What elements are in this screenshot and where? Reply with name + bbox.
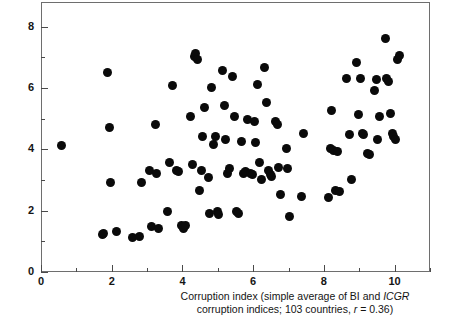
data-point <box>285 212 294 221</box>
data-point <box>195 186 204 195</box>
data-point <box>237 137 246 146</box>
y-axis-tick <box>41 149 48 150</box>
data-point <box>274 163 283 172</box>
data-point <box>381 34 390 43</box>
data-point <box>204 173 213 182</box>
data-point <box>152 169 161 178</box>
data-point <box>324 193 333 202</box>
y-axis-tick <box>41 27 48 28</box>
caption-line1-italic: ICGR <box>383 290 409 302</box>
data-point <box>221 135 230 144</box>
x-axis-tick <box>76 268 77 272</box>
data-point <box>395 51 404 60</box>
x-axis-tick-label: 8 <box>309 275 339 288</box>
x-axis-tick-label: 2 <box>97 275 127 288</box>
data-point <box>354 110 363 119</box>
data-point <box>230 112 239 121</box>
data-point <box>253 80 262 89</box>
data-point <box>154 224 163 233</box>
data-point <box>209 140 218 149</box>
caption-line1-text: Corruption index (simple average of BI a… <box>181 290 384 302</box>
x-axis-tick-label: 10 <box>380 275 410 288</box>
data-point <box>234 209 243 218</box>
data-point <box>200 103 209 112</box>
x-axis-tick <box>395 265 396 272</box>
data-point <box>333 147 342 156</box>
data-point <box>384 77 393 86</box>
data-point <box>106 178 115 187</box>
data-point <box>282 144 291 153</box>
data-point <box>105 123 114 132</box>
x-axis-tick <box>112 265 113 272</box>
data-point <box>283 164 292 173</box>
x-axis-tick <box>218 268 219 272</box>
data-point <box>373 135 382 144</box>
y-axis-tick <box>41 211 48 212</box>
y-axis-tick <box>41 272 48 273</box>
data-point <box>198 132 207 141</box>
data-points-layer <box>42 3 429 271</box>
x-axis-tick <box>182 265 183 272</box>
data-point <box>391 135 400 144</box>
x-axis-tick-label: 4 <box>167 275 197 288</box>
data-point <box>347 175 356 184</box>
data-point <box>372 75 381 84</box>
data-point <box>299 129 308 138</box>
data-point <box>135 232 144 241</box>
data-point <box>211 132 220 141</box>
data-point <box>297 192 306 201</box>
data-point <box>262 98 271 107</box>
x-axis-tick <box>359 268 360 272</box>
data-point <box>99 229 108 238</box>
caption-line-2: corruption indices; 103 countries, r = 0… <box>197 303 393 315</box>
data-point <box>386 109 395 118</box>
data-point <box>186 112 195 121</box>
data-point <box>218 66 227 75</box>
data-point <box>163 207 172 216</box>
data-point <box>165 158 174 167</box>
x-axis-caption: Corruption index (simple average of BI a… <box>150 290 440 316</box>
data-point <box>220 101 229 110</box>
data-point <box>345 130 354 139</box>
data-point <box>267 172 276 181</box>
x-axis-tick <box>253 265 254 272</box>
data-point <box>207 83 216 92</box>
y-axis-tick <box>41 119 45 120</box>
data-point <box>251 138 260 147</box>
x-axis-tick <box>289 268 290 272</box>
data-point <box>356 74 365 83</box>
caption-line2-suffix: = 0.36) <box>357 303 393 315</box>
data-point <box>193 55 202 64</box>
data-point <box>273 120 282 129</box>
x-axis-tick-label: 6 <box>238 275 268 288</box>
x-axis-tick <box>41 265 42 272</box>
y-axis-tick-label: 6 <box>14 81 34 94</box>
x-axis-tick <box>324 265 325 272</box>
caption-line-1: Corruption index (simple average of BI a… <box>181 290 410 302</box>
data-point <box>214 210 223 219</box>
y-axis-tick <box>41 57 45 58</box>
data-point <box>174 167 183 176</box>
data-point <box>168 81 177 90</box>
data-point <box>103 68 112 77</box>
data-point <box>137 178 146 187</box>
x-axis-tick <box>147 268 148 272</box>
y-axis-tick-label: 2 <box>14 204 34 217</box>
y-axis-tick <box>41 180 45 181</box>
data-point <box>225 164 234 173</box>
data-point <box>188 160 197 169</box>
data-point <box>151 120 160 129</box>
data-point <box>181 221 190 230</box>
caption-line2-text: corruption indices; 103 countries, <box>197 303 354 315</box>
y-axis-tick <box>41 241 45 242</box>
data-point <box>365 150 374 159</box>
scatter-plot-figure: 024681002468 Corruption index (simple av… <box>0 0 449 318</box>
data-point <box>375 112 384 121</box>
data-point <box>257 175 266 184</box>
data-point <box>228 72 237 81</box>
data-point <box>197 166 206 175</box>
y-axis-tick-label: 4 <box>14 142 34 155</box>
y-axis-tick-label: 0 <box>14 265 34 278</box>
data-point <box>248 170 257 179</box>
data-point <box>370 86 379 95</box>
